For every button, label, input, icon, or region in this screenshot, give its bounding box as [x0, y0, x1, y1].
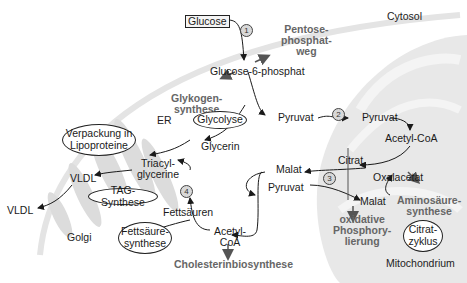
- pathway-aminosaeuresynthese: Aminosäure- synthese: [397, 195, 461, 217]
- step-number-4: 4: [180, 185, 193, 198]
- metabolite-glucose-6-phosphat: Glucose-6-phosphat: [210, 66, 305, 77]
- metabolic-diagram: Cytosol Mitochondrium ER Golgi Glucose G…: [0, 0, 467, 283]
- region-label-golgi: Golgi: [67, 232, 92, 243]
- region-label-er: ER: [157, 115, 172, 126]
- metabolite-oxalacetat: Oxalacetat: [373, 172, 423, 183]
- metabolite-fettsaeuren: Fettsäuren: [163, 207, 213, 218]
- oxphos-line-3: lierung: [333, 236, 391, 247]
- metabolite-vldl-secreted: VLDL: [7, 205, 33, 216]
- pathway-cholesterinbiosynthese: Cholesterinbiosynthese: [174, 259, 293, 270]
- metabolite-malat-mito: Malat: [360, 196, 386, 207]
- amino-line-2: synthese: [397, 206, 461, 217]
- metabolite-citrat: Citrat: [338, 155, 363, 166]
- step-number-1: 1: [240, 24, 253, 37]
- metabolite-malat-cytosol: Malat: [276, 164, 302, 175]
- region-label-cytosol: Cytosol: [387, 11, 422, 22]
- bubble-glycolyse: Glycolyse: [193, 111, 247, 129]
- metabolite-pyruvat-mito: Pyruvat: [362, 112, 398, 123]
- fettsaeure-line-2: synthese: [121, 238, 169, 250]
- step-number-2: 2: [332, 108, 345, 121]
- bubble-fettsaeuresynthese: Fettsäure- synthese: [118, 222, 172, 254]
- region-label-mitochondrium: Mitochondrium: [386, 258, 455, 269]
- metabolite-triacylglycerine: Triacyl- glycerine: [137, 158, 179, 180]
- pentose-line-3: weg: [281, 46, 332, 57]
- bubble-verpackung-lipoproteine: Verpackung in Lipoproteine: [62, 124, 136, 156]
- metabolite-pyruvat-cytosol-2: Pyruvat: [268, 182, 304, 193]
- acetyl-coa-line-2: CoA: [214, 237, 246, 248]
- pathway-oxidative-phosphorylierung: oxidative Phosphory- lierung: [333, 214, 391, 247]
- step-number-3: 3: [323, 172, 336, 185]
- metabolite-glucose: Glucose: [185, 15, 230, 28]
- citrat-line-2: zyklus: [408, 236, 437, 248]
- verpackung-line-2: Lipoproteine: [66, 140, 133, 152]
- pathway-pentosephosphatweg: Pentose- phosphat- weg: [281, 24, 332, 57]
- metabolite-glycerin: Glycerin: [201, 141, 240, 152]
- metabolite-vldl-golgi: VLDL: [70, 173, 96, 184]
- bubble-tag-synthese: TAG-Synthese: [88, 188, 158, 205]
- metabolite-acetyl-coa-cytosol: Acetyl- CoA: [214, 226, 246, 248]
- metabolite-acetyl-coa-mito: Acetyl-CoA: [385, 133, 438, 144]
- triacyl-line-2: glycerine: [137, 169, 179, 180]
- metabolite-pyruvat-cytosol: Pyruvat: [278, 112, 314, 123]
- bubble-citratzyklus: Citrat- zyklus: [403, 220, 443, 252]
